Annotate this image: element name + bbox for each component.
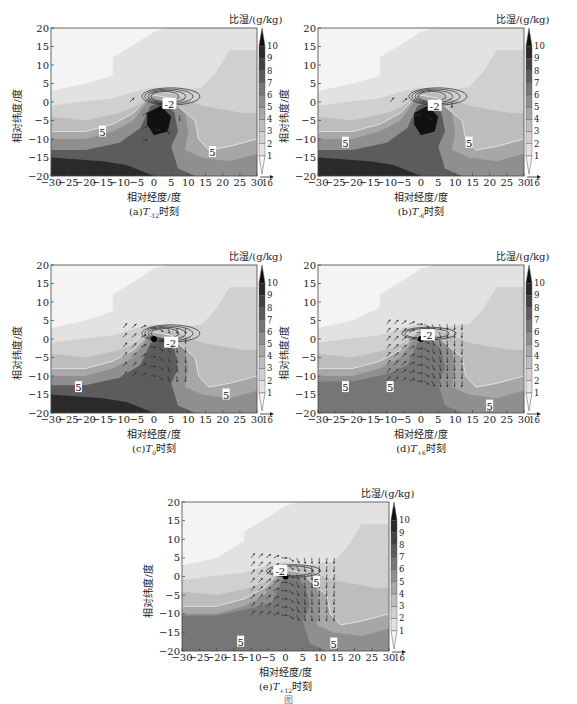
svg-text:10: 10 — [449, 414, 462, 425]
svg-text:15: 15 — [199, 414, 212, 425]
svg-text:25: 25 — [500, 414, 513, 425]
svg-text:25: 25 — [233, 414, 246, 425]
svg-text:5: 5 — [168, 177, 174, 188]
svg-text:−15: −15 — [28, 152, 49, 163]
colorbar-title: 比湿/(g/kg) — [496, 248, 549, 263]
svg-text:−10: −10 — [28, 371, 49, 382]
svg-text:25: 25 — [500, 177, 513, 188]
svg-text:15: 15 — [466, 177, 479, 188]
svg-text:15: 15 — [36, 278, 49, 289]
svg-text:20: 20 — [303, 23, 316, 34]
panel-e: -255520151050−5−10−15−20−30−25−20−15−10−… — [132, 480, 449, 704]
y-axis-label: 相对纬度/度 — [9, 300, 24, 380]
x-axis-label: 相对经度/度 — [51, 189, 257, 204]
svg-text:5: 5 — [168, 414, 174, 425]
svg-text:2: 2 — [399, 613, 404, 623]
y-axis-label: 相对纬度/度 — [140, 537, 155, 617]
colorbar-title: 比湿/(g/kg) — [361, 485, 414, 500]
svg-text:20: 20 — [216, 177, 229, 188]
svg-text:0: 0 — [310, 97, 316, 108]
svg-text:15: 15 — [303, 278, 316, 289]
svg-text:9: 9 — [534, 290, 539, 300]
x-axis-label: 相对经度/度 — [51, 426, 257, 441]
panel-d: -255520151050−5−10−15−20−30−25−20−15−10−… — [268, 243, 577, 471]
svg-text:5: 5 — [310, 315, 316, 326]
contour-label: 5 — [331, 639, 337, 650]
svg-text:−10: −10 — [240, 652, 261, 663]
svg-text:5: 5 — [435, 177, 441, 188]
svg-text:−5: −5 — [301, 115, 316, 126]
contour-label: -2 — [430, 101, 440, 112]
svg-text:−5: −5 — [129, 177, 144, 188]
svg-text:0: 0 — [174, 571, 180, 582]
svg-text:1: 1 — [534, 388, 539, 398]
svg-text:9: 9 — [534, 53, 539, 63]
contour-label: 5 — [466, 138, 472, 149]
svg-text:16: 16 — [529, 415, 540, 425]
svg-text:0: 0 — [151, 414, 157, 425]
figure-caption: 图 — [0, 693, 577, 704]
svg-text:−10: −10 — [109, 177, 130, 188]
y-axis-label: 相对纬度/度 — [276, 300, 291, 380]
svg-text:−5: −5 — [34, 115, 49, 126]
svg-text:15: 15 — [331, 652, 344, 663]
svg-text:7: 7 — [534, 315, 539, 325]
svg-text:−5: −5 — [129, 414, 144, 425]
svg-text:20: 20 — [483, 414, 496, 425]
svg-text:10: 10 — [303, 60, 316, 71]
svg-text:20: 20 — [216, 414, 229, 425]
contour-label: -2 — [166, 338, 176, 349]
svg-text:16: 16 — [529, 178, 540, 188]
contour-label: 5 — [99, 127, 105, 138]
svg-text:−5: −5 — [396, 414, 411, 425]
svg-text:−15: −15 — [295, 152, 316, 163]
panel-b: -25520151050−5−10−15−20−30−25−20−15−10−5… — [268, 6, 577, 234]
svg-text:5: 5 — [310, 78, 316, 89]
svg-text:−15: −15 — [295, 389, 316, 400]
svg-text:1: 1 — [399, 626, 404, 636]
svg-text:10: 10 — [36, 297, 49, 308]
svg-text:0: 0 — [151, 177, 157, 188]
svg-text:7: 7 — [399, 552, 404, 562]
svg-text:−10: −10 — [376, 414, 397, 425]
svg-text:5: 5 — [300, 652, 306, 663]
contour-label: 5 — [313, 577, 319, 588]
svg-text:6: 6 — [534, 327, 539, 337]
svg-text:10: 10 — [534, 278, 545, 288]
x-axis-label: 相对经度/度 — [318, 189, 524, 204]
y-axis-label: 相对纬度/度 — [276, 63, 291, 143]
panel-caption: (e)T+12时刻 — [182, 678, 389, 694]
panel-caption: (d)T+6时刻 — [318, 440, 524, 456]
contour-label: 5 — [75, 382, 81, 393]
svg-text:0: 0 — [43, 97, 49, 108]
svg-text:3: 3 — [534, 363, 539, 373]
svg-text:8: 8 — [534, 66, 539, 76]
svg-text:−10: −10 — [159, 608, 180, 619]
svg-text:8: 8 — [534, 303, 539, 313]
svg-text:0: 0 — [418, 414, 424, 425]
svg-text:20: 20 — [167, 497, 180, 508]
svg-text:5: 5 — [174, 552, 180, 563]
svg-text:−10: −10 — [295, 134, 316, 145]
svg-text:−5: −5 — [396, 177, 411, 188]
svg-text:15: 15 — [466, 414, 479, 425]
svg-text:0: 0 — [418, 177, 424, 188]
svg-text:15: 15 — [303, 41, 316, 52]
svg-text:5: 5 — [43, 78, 49, 89]
contour-label: 5 — [486, 401, 492, 412]
svg-text:1: 1 — [534, 151, 539, 161]
contour-label: 5 — [209, 147, 215, 158]
svg-text:2: 2 — [534, 376, 539, 386]
svg-text:10: 10 — [182, 414, 195, 425]
svg-text:9: 9 — [399, 528, 404, 538]
svg-text:15: 15 — [199, 177, 212, 188]
svg-text:15: 15 — [36, 41, 49, 52]
svg-text:20: 20 — [36, 23, 49, 34]
svg-text:25: 25 — [233, 177, 246, 188]
svg-text:10: 10 — [182, 177, 195, 188]
svg-text:5: 5 — [435, 414, 441, 425]
svg-text:0: 0 — [43, 334, 49, 345]
svg-text:5: 5 — [534, 339, 539, 349]
svg-text:8: 8 — [399, 540, 404, 550]
svg-text:20: 20 — [348, 652, 361, 663]
